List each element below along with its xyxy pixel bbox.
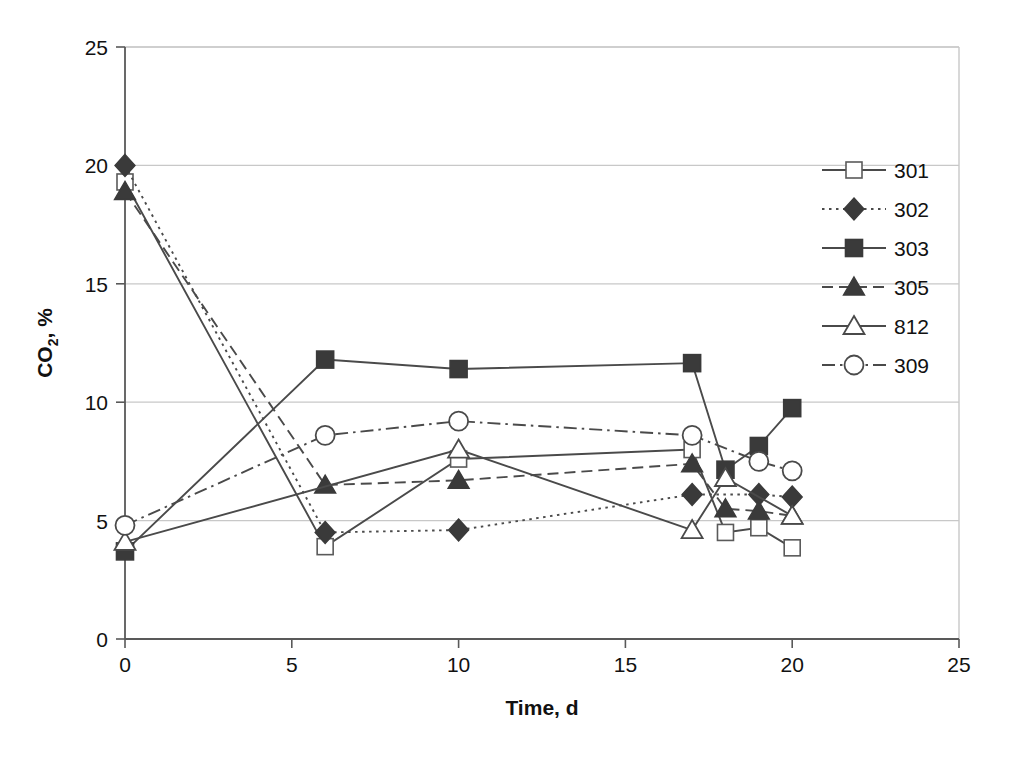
data-point-309-6	[316, 426, 335, 445]
chart-legend: 301302303305812309	[818, 148, 959, 390]
data-point-812-17	[682, 520, 703, 538]
axis-titles: Time, dCO2, %	[33, 308, 579, 719]
data-point-303-6	[317, 351, 334, 368]
legend-label-301: 301	[894, 159, 929, 182]
legend-item-301[interactable]: 301	[822, 159, 929, 182]
legend-label-303: 303	[894, 237, 929, 260]
data-point-309-10	[449, 412, 468, 431]
data-point-303-10	[450, 361, 467, 378]
data-point-302-17	[682, 484, 702, 506]
y-axis-title-text: CO2, %	[33, 308, 61, 378]
legend-item-812[interactable]: 812	[822, 315, 929, 338]
legend-item-303[interactable]: 303	[822, 237, 929, 260]
data-point-309-0	[116, 516, 135, 535]
data-point-301-19	[751, 520, 767, 536]
legend-marker-301	[846, 162, 862, 178]
axis-tick-labels: 05101520250510152025	[85, 36, 971, 676]
x-tick-label-15: 15	[614, 653, 637, 676]
y-tick-label-15: 15	[85, 273, 108, 296]
data-point-309-17	[683, 426, 702, 445]
y-tick-label-5: 5	[96, 510, 108, 533]
legend-marker-302	[844, 198, 864, 220]
legend-box	[818, 148, 959, 390]
legend-marker-309	[845, 356, 864, 375]
chart-figure: 05101520250510152025 301302303305812309 …	[0, 0, 1013, 763]
legend-label-812: 812	[894, 315, 929, 338]
y-axis-title-tail: , %	[33, 308, 56, 339]
data-point-302-0	[115, 154, 135, 176]
data-series-layer	[115, 154, 803, 559]
y-axis-title-main: CO	[33, 346, 56, 378]
x-tick-label-0: 0	[119, 653, 131, 676]
legend-marker-303	[846, 240, 863, 257]
x-tick-label-10: 10	[447, 653, 470, 676]
legend-label-305: 305	[894, 276, 929, 299]
x-tick-label-20: 20	[781, 653, 804, 676]
data-point-301-18	[717, 524, 733, 540]
legend-item-309[interactable]: 309	[822, 354, 929, 377]
legend-item-302[interactable]: 302	[822, 198, 929, 221]
data-point-302-10	[449, 519, 469, 541]
y-tick-label-20: 20	[85, 154, 108, 177]
data-point-812-10	[448, 440, 469, 458]
y-axis-title: CO2, %	[33, 308, 61, 378]
legend-label-309: 309	[894, 354, 929, 377]
axes	[116, 47, 959, 648]
legend-marker-305	[844, 277, 865, 295]
data-point-309-19	[749, 452, 768, 471]
legend-marker-812	[844, 316, 865, 334]
legend-item-305[interactable]: 305	[822, 276, 929, 299]
y-tick-label-25: 25	[85, 36, 108, 59]
data-point-301-20	[784, 540, 800, 556]
gridlines	[125, 47, 959, 639]
y-tick-label-10: 10	[85, 391, 108, 414]
y-axis-title-subscript: 2	[45, 338, 61, 346]
data-point-305-18	[715, 499, 736, 517]
data-point-303-20	[784, 400, 801, 417]
data-point-309-20	[783, 461, 802, 480]
x-axis-title: Time, d	[505, 696, 578, 719]
legend-label-302: 302	[894, 198, 929, 221]
co2-vs-time-line-chart: 05101520250510152025 301302303305812309 …	[0, 0, 1013, 763]
x-tick-label-5: 5	[286, 653, 298, 676]
y-tick-label-0: 0	[96, 628, 108, 651]
data-point-303-17	[684, 355, 701, 372]
x-tick-label-25: 25	[947, 653, 970, 676]
